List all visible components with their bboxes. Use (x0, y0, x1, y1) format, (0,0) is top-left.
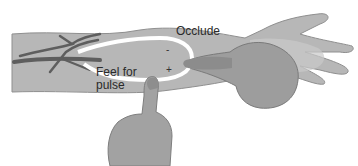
allen-test-illustration: - + Occlude Feel for pulse (0, 0, 358, 166)
plus-sign: + (166, 64, 172, 75)
feel-for-pulse-label: Feel for pulse (96, 66, 156, 92)
occlude-label: Occlude (176, 25, 220, 38)
pulse-text: pulse (96, 79, 156, 92)
minus-sign: - (166, 44, 169, 55)
